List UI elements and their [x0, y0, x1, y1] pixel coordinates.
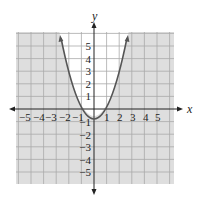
x-tick: 1 — [104, 111, 110, 123]
y-tick: −1 — [79, 116, 91, 128]
y-tick: 5 — [86, 40, 92, 52]
y-tick: −4 — [79, 154, 91, 166]
y-axis-down-arrow-icon — [92, 189, 97, 195]
x-tick: −2 — [59, 111, 71, 123]
graph: x y −5 −4 −3 −2 −1 1 2 3 4 5 5 4 3 2 1 −… — [0, 0, 206, 202]
x-tick: 2 — [117, 111, 123, 123]
x-tick: −4 — [33, 111, 45, 123]
y-tick: 4 — [86, 53, 92, 65]
x-tick: 5 — [155, 111, 161, 123]
y-tick: 2 — [86, 78, 92, 90]
x-tick: 4 — [143, 111, 149, 123]
y-tick: −5 — [79, 166, 91, 178]
x-axis-label: x — [186, 102, 193, 116]
y-tick: 1 — [86, 90, 92, 102]
y-tick: −3 — [79, 141, 91, 153]
x-tick: −3 — [45, 111, 57, 123]
y-axis-label: y — [91, 9, 98, 23]
y-tick: 3 — [86, 65, 92, 77]
x-axis-right-arrow-icon — [177, 107, 183, 112]
x-tick: −5 — [19, 111, 31, 123]
y-tick: −2 — [79, 129, 91, 141]
x-axis-left-arrow-icon — [9, 107, 15, 112]
x-tick: 3 — [130, 111, 136, 123]
